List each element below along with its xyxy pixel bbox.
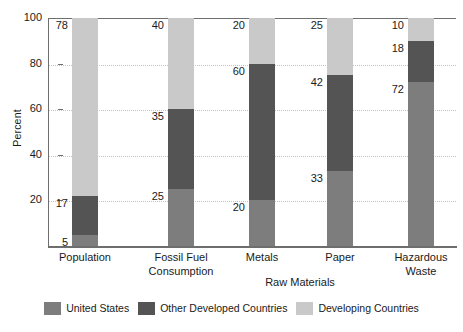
bar-value-label-fossil-fuel-consumption-35: 35: [122, 111, 164, 122]
bar-segment-paper-developing-countries: [327, 18, 353, 75]
legend-label: United States: [66, 302, 129, 315]
bar-value-label-population-17: 17: [26, 198, 68, 209]
stacked-bar-chart: Percent 10080604020 78175403525206020254…: [0, 0, 463, 332]
x-axis-line: [48, 246, 457, 248]
bar-value-label-metals-60: 60: [203, 66, 245, 77]
bar-value-label-paper-42: 42: [281, 77, 323, 88]
legend-swatch-other-developed-countries: [138, 302, 155, 315]
bar-value-label-fossil-fuel-consumption-25: 25: [122, 191, 164, 202]
bar-segment-metals-developing-countries: [249, 18, 275, 64]
bar-segment-hazardous-waste-developing-countries: [408, 18, 434, 41]
bar-value-label-population-5: 5: [26, 237, 68, 248]
bar-population: [72, 18, 98, 246]
bar-segment-metals-united-states: [249, 200, 275, 246]
bar-segment-fossil-fuel-consumption-united-states: [168, 189, 194, 246]
raw-materials-bracket-label: Raw Materials: [238, 276, 362, 288]
bar-value-label-population-78: 78: [26, 20, 68, 31]
y-tick-label-80: 80: [14, 58, 42, 69]
bar-value-label-fossil-fuel-consumption-40: 40: [122, 20, 164, 31]
bar-segment-population-developing-countries: [72, 18, 98, 196]
bar-value-label-hazardous-waste-10: 10: [362, 20, 404, 31]
bar-hazardous-waste: [408, 18, 434, 246]
category-label-line2: Consumption: [116, 264, 246, 278]
category-label-line1: Hazardous: [356, 250, 463, 264]
bar-value-label-hazardous-waste-18: 18: [362, 43, 404, 54]
y-tick-label-60: 60: [14, 103, 42, 114]
bar-value-label-metals-20: 20: [203, 20, 245, 31]
chart-legend: United StatesOther Developed CountriesDe…: [0, 302, 463, 315]
legend-item-other-developed-countries: Other Developed Countries: [138, 302, 287, 315]
category-label-line2: Waste: [356, 264, 463, 278]
bar-segment-hazardous-waste-united-states: [408, 82, 434, 246]
y-tick-label-40: 40: [14, 149, 42, 160]
legend-label: Other Developed Countries: [160, 302, 287, 315]
bar-segment-fossil-fuel-consumption-other-developed-countries: [168, 109, 194, 189]
bar-value-label-paper-33: 33: [281, 173, 323, 184]
bar-paper: [327, 18, 353, 246]
bar-segment-population-other-developed-countries: [72, 196, 98, 235]
legend-item-united-states: United States: [44, 302, 129, 315]
bar-segment-population-united-states: [72, 235, 98, 246]
bar-value-label-hazardous-waste-72: 72: [362, 84, 404, 95]
bar-value-label-metals-20: 20: [203, 202, 245, 213]
bar-segment-paper-united-states: [327, 171, 353, 246]
y-axis-tick-labels: 10080604020: [10, 0, 42, 332]
bar-metals: [249, 18, 275, 246]
bar-value-label-paper-25: 25: [281, 20, 323, 31]
legend-item-developing-countries: Developing Countries: [296, 302, 418, 315]
bar-segment-hazardous-waste-other-developed-countries: [408, 41, 434, 82]
legend-label: Developing Countries: [318, 302, 418, 315]
bar-segment-paper-other-developed-countries: [327, 75, 353, 171]
bar-fossil-fuel-consumption: [168, 18, 194, 246]
bar-segment-metals-other-developed-countries: [249, 64, 275, 201]
bar-segment-fossil-fuel-consumption-developing-countries: [168, 18, 194, 109]
category-label-hazardous-waste: HazardousWaste: [356, 250, 463, 278]
legend-swatch-united-states: [44, 302, 61, 315]
legend-swatch-developing-countries: [296, 302, 313, 315]
